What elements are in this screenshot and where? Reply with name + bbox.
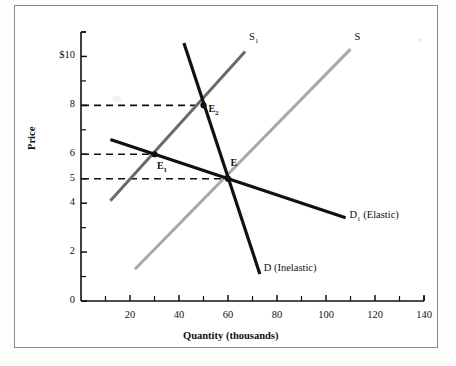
equilibrium-label-E2-subscript: 2 bbox=[215, 109, 219, 117]
curve-label-D-main: D (Inelastic) bbox=[264, 262, 317, 273]
x-tick-label-100: 100 bbox=[306, 309, 346, 320]
curve-label-S: S bbox=[354, 31, 360, 42]
curve-label-D: D (Inelastic) bbox=[264, 262, 317, 273]
curve-label-D1-tail: (Elastic) bbox=[361, 209, 399, 220]
curve-label-S1: S1 bbox=[249, 31, 258, 45]
equilibrium-label-E1-main: E bbox=[157, 160, 164, 171]
curve-label-D1-main: D bbox=[350, 209, 358, 220]
x-tick-label-140: 140 bbox=[404, 309, 444, 320]
x-tick-label-120: 120 bbox=[355, 309, 395, 320]
x-tick-label-60: 60 bbox=[208, 309, 248, 320]
y-tick-label-2: 2 bbox=[35, 245, 75, 256]
y-tick-label-5: 5 bbox=[35, 172, 75, 183]
y-tick-label-0: 0 bbox=[35, 294, 75, 305]
guide-lines bbox=[82, 105, 228, 178]
equilibrium-label-E2: E2 bbox=[208, 103, 218, 117]
equilibrium-dot-E bbox=[225, 176, 231, 182]
y-tick-label-6: 6 bbox=[35, 147, 75, 158]
equilibrium-label-E: E bbox=[230, 157, 237, 168]
x-tick-label-40: 40 bbox=[159, 309, 199, 320]
equilibrium-dot-E2 bbox=[200, 102, 206, 108]
x-tick-label-20: 20 bbox=[110, 309, 150, 320]
curve-label-D1: D1 (Elastic) bbox=[350, 209, 399, 223]
axes bbox=[81, 32, 424, 301]
y-tick-label-8: 8 bbox=[35, 98, 75, 109]
equilibrium-dot-E1 bbox=[151, 151, 157, 157]
chart-page: Price Quantity (thousands) 024568$102040… bbox=[0, 0, 456, 366]
equilibrium-label-E1: E1 bbox=[157, 160, 167, 174]
y-tick-label-dollar10: $10 bbox=[35, 49, 75, 60]
x-axis-title: Quantity (thousands) bbox=[183, 330, 278, 341]
x-tick-label-80: 80 bbox=[257, 309, 297, 320]
curve-label-S1-subscript: 1 bbox=[255, 37, 259, 45]
equilibrium-label-E-main: E bbox=[230, 157, 237, 168]
curve-label-S-main: S bbox=[354, 31, 360, 42]
equilibrium-label-E1-subscript: 1 bbox=[164, 166, 168, 174]
y-tick-label-4: 4 bbox=[35, 196, 75, 207]
